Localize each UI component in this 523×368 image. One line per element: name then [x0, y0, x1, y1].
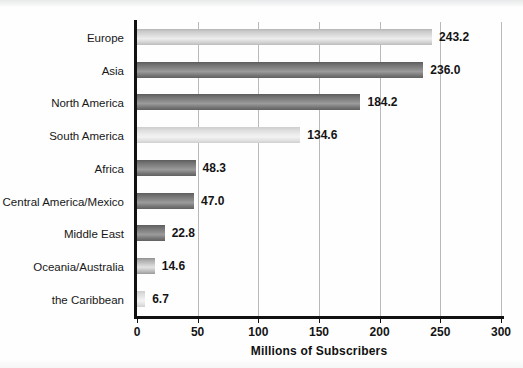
bar-value-label: 184.2 [367, 94, 397, 110]
bar-asia [137, 62, 423, 78]
gridline-300 [501, 22, 502, 316]
category-label-europe: Europe [0, 22, 131, 55]
scan-artifact-top [0, 0, 523, 7]
x-tick-label-100: 100 [248, 325, 268, 339]
bar-row: 48.3 [137, 153, 501, 186]
bar-row: 184.2 [137, 87, 501, 120]
category-label-text: the Caribbean [0, 284, 124, 317]
x-tick-50 [198, 319, 199, 323]
category-label-asia: Asia [0, 55, 131, 88]
bar-middle-east [137, 225, 165, 241]
x-tick-150 [319, 319, 320, 323]
bar-value-label: 47.0 [201, 193, 224, 209]
x-tick-label-200: 200 [370, 325, 390, 339]
category-label-text: Central America/Mexico [0, 186, 124, 219]
x-tick-label-50: 50 [191, 325, 204, 339]
bar-value-label: 22.8 [172, 225, 195, 241]
x-tick-100 [258, 319, 259, 323]
category-label-text: North America [0, 87, 124, 120]
bar-row: 6.7 [137, 284, 501, 317]
category-label-text: Middle East [0, 218, 124, 251]
category-label-text: Europe [0, 22, 124, 55]
bar-row: 22.8 [137, 218, 501, 251]
plot-area: 243.2 236.0 184.2 134.6 48.3 47.0 22.8 [137, 22, 501, 316]
bar-row: 134.6 [137, 120, 501, 153]
category-label-africa: Africa [0, 153, 131, 186]
category-label-the-caribbean: the Caribbean [0, 284, 131, 317]
y-axis-line [134, 20, 137, 318]
bar-row: 243.2 [137, 22, 501, 55]
category-label-text: Asia [0, 55, 124, 88]
bar-value-label: 134.6 [307, 127, 337, 143]
x-tick-label-300: 300 [491, 325, 511, 339]
x-tick-label-0: 0 [134, 325, 141, 339]
bar-south-america [137, 127, 300, 143]
bar-the-caribbean [137, 291, 145, 307]
category-label-central-america-mexico: Central America/Mexico [0, 186, 131, 219]
x-tick-250 [440, 319, 441, 323]
bar-oceania-australia [137, 258, 155, 274]
bar-row: 14.6 [137, 251, 501, 284]
bar-value-label: 48.3 [203, 160, 226, 176]
x-tick-200 [380, 319, 381, 323]
bar-central-america-mexico [137, 193, 194, 209]
bar-value-label: 243.2 [439, 29, 469, 45]
x-tick-300 [501, 319, 502, 323]
x-axis-title: Millions of Subscribers [137, 344, 501, 358]
bar-value-label: 236.0 [430, 62, 460, 78]
bar-chart-figure: Europe Asia North America South America … [0, 0, 523, 368]
category-label-text: South America [0, 120, 124, 153]
x-tick-0 [137, 319, 138, 323]
scan-artifact-bottom [0, 360, 523, 368]
bar-europe [137, 29, 432, 45]
category-label-text: Africa [0, 153, 124, 186]
x-tick-label-250: 250 [430, 325, 450, 339]
category-label-middle-east: Middle East [0, 218, 131, 251]
bar-row: 47.0 [137, 186, 501, 219]
bar-row: 236.0 [137, 55, 501, 88]
category-label-text: Oceania/Australia [0, 251, 124, 284]
x-tick-label-150: 150 [309, 325, 329, 339]
bar-north-america [137, 94, 360, 110]
bar-value-label: 6.7 [152, 291, 169, 307]
bar-value-label: 14.6 [162, 258, 185, 274]
category-axis-labels: Europe Asia North America South America … [0, 22, 131, 316]
category-label-north-america: North America [0, 87, 131, 120]
category-label-oceania-australia: Oceania/Australia [0, 251, 131, 284]
category-label-south-america: South America [0, 120, 131, 153]
bar-africa [137, 160, 196, 176]
